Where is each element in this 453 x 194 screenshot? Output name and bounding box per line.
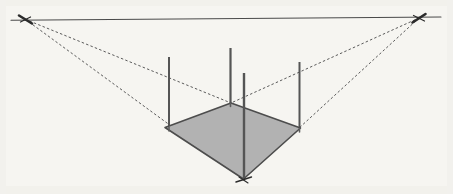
perspective-canvas (0, 0, 453, 194)
perspective-figure (0, 0, 453, 194)
